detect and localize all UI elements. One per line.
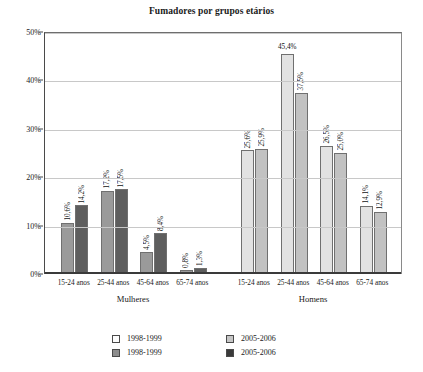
y-axis-tick-mark <box>38 128 43 129</box>
y-axis-tick-mark <box>38 177 43 178</box>
category-tick-label: 65-74 anos <box>346 278 398 287</box>
y-axis-tick-mark <box>38 225 43 226</box>
y-axis-tick-label: 0% <box>1 270 41 279</box>
group-label: Mulheres <box>88 294 178 304</box>
bar <box>154 233 167 274</box>
legend-item: 1998-1999 <box>112 348 208 357</box>
bar-value-label: 25,9% <box>258 128 266 147</box>
bar-value-label: 45,4% <box>273 43 302 51</box>
bar-value-label: 17,2% <box>103 170 111 189</box>
legend-swatch-icon <box>226 335 234 343</box>
legend-swatch-icon <box>112 335 120 343</box>
y-axis-tick-label: 10% <box>1 221 41 230</box>
bar <box>255 149 268 274</box>
bar-value-label: 12,9% <box>376 191 384 210</box>
bar-value-label: 0,8% <box>182 253 190 268</box>
bar <box>374 212 387 274</box>
bar-value-label: 25,0% <box>337 132 345 151</box>
bar <box>61 223 74 274</box>
bar-value-label: 26,5% <box>323 125 331 144</box>
chart-legend: 1998-19992005-20061998-19992005-2006 <box>112 334 322 357</box>
legend-item: 2005-2006 <box>226 334 322 343</box>
group-label: Homens <box>268 294 358 304</box>
plot-area: 10,6%14,2%17,2%17,5%4,5%8,4%0,8%1,3%25,6… <box>44 32 402 274</box>
bar <box>101 191 114 274</box>
y-axis-tick-mark <box>38 32 43 33</box>
bar <box>75 205 88 274</box>
legend-label: 2005-2006 <box>241 334 276 343</box>
y-axis-tick-mark <box>38 274 43 275</box>
bar-value-label: 1,3% <box>196 251 204 266</box>
gridline <box>45 178 401 179</box>
category-tick-label: 65-74 anos <box>166 278 218 287</box>
legend-item: 2005-2006 <box>226 348 322 357</box>
gridline <box>45 227 401 228</box>
chart-title: Fumadores por grupos etários <box>0 6 423 16</box>
bar <box>140 252 153 274</box>
legend-label: 1998-1999 <box>127 334 162 343</box>
y-axis-tick-label: 40% <box>1 76 41 85</box>
legend-label: 1998-1999 <box>127 348 162 357</box>
bar-value-label: 14,2% <box>78 185 86 204</box>
legend-label: 2005-2006 <box>241 348 276 357</box>
bar <box>115 189 128 274</box>
bar <box>281 54 294 274</box>
y-axis-tick-label: 50% <box>1 28 41 37</box>
bar <box>241 150 254 274</box>
y-axis-tick-label: 30% <box>1 124 41 133</box>
legend-swatch-icon <box>112 349 120 357</box>
bar-value-label: 14,1% <box>362 185 370 204</box>
gridline <box>45 81 401 82</box>
bar <box>334 153 347 274</box>
y-axis-tick-mark <box>38 80 43 81</box>
bars-layer: 10,6%14,2%17,2%17,5%4,5%8,4%0,8%1,3%25,6… <box>45 33 401 274</box>
gridline <box>45 130 401 131</box>
bar-value-label: 8,4% <box>157 216 165 231</box>
legend-swatch-icon <box>226 349 234 357</box>
gridline <box>45 33 401 34</box>
bar-value-label: 10,6% <box>64 202 72 221</box>
legend-item: 1998-1999 <box>112 334 208 343</box>
bar-value-label: 25,6% <box>244 130 252 149</box>
bar-value-label: 4,5% <box>143 235 151 250</box>
y-axis-tick-label: 20% <box>1 173 41 182</box>
chart-container: Fumadores por grupos etários 10,6%14,2%1… <box>0 0 423 372</box>
bar <box>320 146 333 274</box>
x-axis-line <box>45 272 401 274</box>
bar <box>295 93 308 275</box>
bar <box>360 206 373 274</box>
